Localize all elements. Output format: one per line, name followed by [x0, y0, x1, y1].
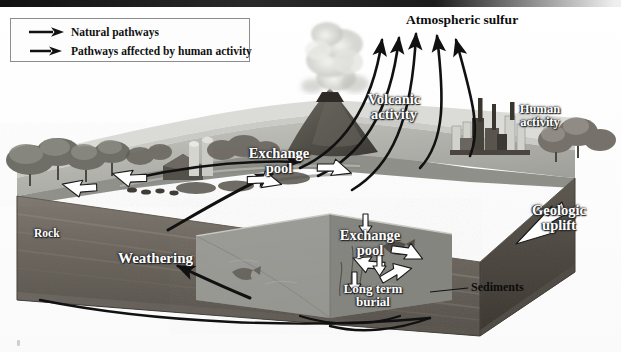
page-artifact-speck	[17, 340, 20, 346]
diagram-canvas: Natural pathways Pathways affected by hu…	[0, 0, 621, 352]
page-top-edge-artifact	[0, 0, 621, 7]
legend-box: Natural pathways Pathways affected by hu…	[10, 18, 250, 62]
black-arrow-icon	[29, 26, 65, 37]
legend-item-human: Pathways affected by human activity	[11, 41, 251, 60]
legend-label-human: Pathways affected by human activity	[71, 45, 252, 57]
legend-label-natural: Natural pathways	[71, 26, 159, 38]
black-arrow-icon	[29, 45, 65, 56]
legend-item-natural: Natural pathways	[11, 22, 251, 41]
water-body	[196, 210, 456, 322]
